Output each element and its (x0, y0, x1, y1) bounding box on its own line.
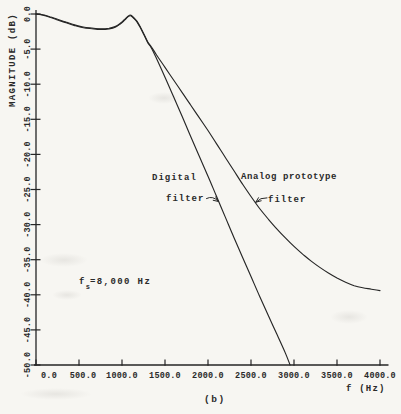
y-tick-label: -45.0 (23, 317, 33, 344)
x-axis-title: f (Hz) (346, 384, 386, 394)
x-tick-label: 2000.0 (192, 371, 224, 381)
y-tick-label: -20.0 (23, 141, 33, 168)
x-tick-label: 1000.0 (106, 371, 138, 381)
y-tick-label: -25.0 (23, 176, 33, 203)
y-tick-label: -40.0 (23, 282, 33, 309)
fs-symbol: f (79, 277, 86, 287)
fs-value: =8,000 Hz (90, 277, 151, 287)
x-tick-label: 3000.0 (278, 371, 310, 381)
digital-filter-arrow (207, 197, 219, 202)
y-tick-label: 0.0 (23, 6, 33, 22)
x-tick-label: 500.0 (70, 371, 97, 381)
x-tick-label: 3500.0 (321, 371, 353, 381)
filter-magnitude-response-chart: 0.0500.01000.01500.02000.02500.03000.035… (0, 0, 401, 414)
figure-caption: (b) (204, 394, 226, 405)
x-tick-label: 4000.0 (364, 371, 396, 381)
y-tick-label: -15.0 (23, 106, 33, 133)
x-tick-label: 2500.0 (235, 371, 267, 381)
fs-subscript: s (86, 283, 90, 291)
y-axis-title: MAGNITUDE (dB) (8, 13, 18, 107)
x-tick-label: 0.0 (41, 371, 57, 381)
x-tick-label: 1500.0 (149, 371, 181, 381)
sampling-frequency-annotation: fs=8,000 Hz (79, 277, 151, 289)
analog-prototype-filter-curve (36, 14, 380, 291)
analog-filter-arrow (256, 198, 267, 203)
y-tick-label: -5.0 (23, 38, 33, 59)
y-tick-label: -35.0 (23, 246, 33, 273)
digital-filter-label-line1: Digital (152, 173, 197, 183)
analog-prototype-label-line1: Analog prototype (241, 172, 337, 182)
y-tick-label: -10.0 (23, 71, 33, 98)
scanned-figure-page: 0.0500.01000.01500.02000.02500.03000.035… (0, 0, 401, 414)
digital-filter-label-line2: filter (166, 194, 204, 204)
axes-lines (34, 10, 389, 366)
y-tick-label: -30.0 (23, 211, 33, 238)
digital-filter-curve (36, 14, 290, 365)
y-tick-label: -50.0 (23, 352, 33, 379)
analog-prototype-label-line2: filter (268, 195, 306, 205)
